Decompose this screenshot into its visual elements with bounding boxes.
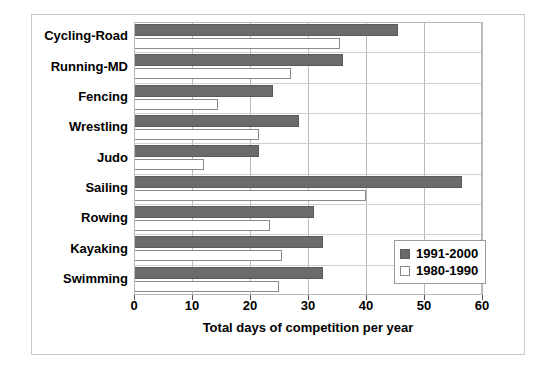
bar-1991-2000 [134,85,273,97]
y-axis-label-rowing: Rowing [28,210,128,225]
y-axis-line [134,22,135,295]
bar-1991-2000 [134,24,398,36]
y-axis-label-sailing: Sailing [28,180,128,195]
x-tick-label: 40 [359,298,373,313]
y-axis-label-running-md: Running-MD [28,59,128,74]
bar-row [134,113,482,143]
bar-1980-1990 [134,220,270,231]
bar-1980-1990 [134,190,366,201]
legend-item: 1980-1990 [400,262,478,279]
y-axis-label-cycling-road: Cycling-Road [28,28,128,43]
bar-1980-1990 [134,38,340,49]
x-axis-title: Total days of competition per year [134,320,482,335]
bar-1991-2000 [134,236,323,248]
bar-1991-2000 [134,115,299,127]
x-tick-label: 30 [301,298,315,313]
y-axis-label-judo: Judo [28,150,128,165]
bar-row [134,204,482,234]
y-axis-label-kayaking: Kayaking [28,241,128,256]
bar-1980-1990 [134,99,218,110]
legend-swatch-dark [400,249,410,259]
bar-1991-2000 [134,206,314,218]
bar-row [134,52,482,82]
bar-row [134,83,482,113]
chart-legend: 1991-20001980-1990 [394,240,486,284]
bar-row [134,22,482,52]
bar-1991-2000 [134,267,323,279]
x-tick-label: 50 [417,298,431,313]
bar-1991-2000 [134,176,462,188]
bar-1980-1990 [134,281,279,292]
bar-row [134,174,482,204]
y-axis-label-fencing: Fencing [28,89,128,104]
legend-swatch-light [400,266,410,276]
x-tick-label: 10 [185,298,199,313]
bar-1980-1990 [134,129,259,140]
bar-1980-1990 [134,159,204,170]
legend-label: 1991-2000 [416,246,478,261]
bar-1980-1990 [134,68,291,79]
bar-1991-2000 [134,145,259,157]
x-axis-tick-labels: 0102030405060 [134,298,482,318]
y-axis-label-swimming: Swimming [28,271,128,286]
bar-1980-1990 [134,250,282,261]
legend-item: 1991-2000 [400,245,478,262]
legend-label: 1980-1990 [416,263,478,278]
y-axis-label-wrestling: Wrestling [28,119,128,134]
chart-figure: Cycling-RoadRunning-MDFencingWrestlingJu… [0,0,548,373]
x-tick-label: 60 [475,298,489,313]
y-axis-category-labels: Cycling-RoadRunning-MDFencingWrestlingJu… [24,22,128,295]
x-tick-label: 0 [130,298,137,313]
x-tick-label: 20 [243,298,257,313]
bar-row [134,143,482,173]
bar-1991-2000 [134,54,343,66]
